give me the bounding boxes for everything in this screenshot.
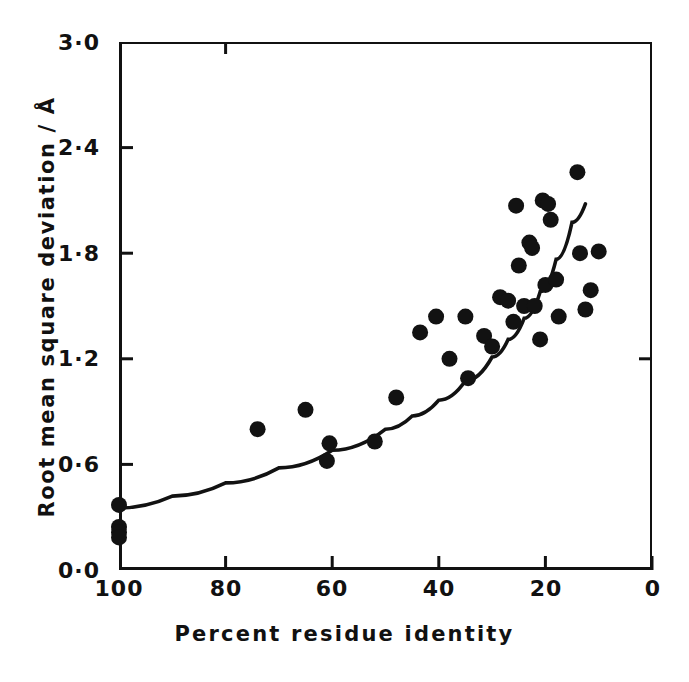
scatter-points	[111, 164, 607, 545]
fitted-trend-curve	[119, 204, 585, 508]
scatter-point	[500, 293, 516, 309]
scatter-point	[319, 453, 335, 469]
scatter-point	[532, 331, 548, 347]
scatter-point	[591, 243, 607, 259]
scatter-point	[322, 435, 338, 451]
scatter-point	[524, 240, 540, 256]
scatter-point	[543, 212, 559, 228]
scatter-point	[460, 370, 476, 386]
scatter-point	[388, 390, 404, 406]
scatter-point	[428, 309, 444, 325]
scatter-point	[508, 198, 524, 214]
scatter-point	[569, 164, 585, 180]
scatter-point	[511, 258, 527, 274]
scatter-point	[505, 314, 521, 330]
scatter-point	[111, 529, 127, 545]
scatter-point	[412, 324, 428, 340]
scatter-point	[548, 272, 564, 288]
scatter-point	[572, 245, 588, 261]
scatter-point	[583, 282, 599, 298]
scatter-point	[540, 196, 556, 212]
scatter-point	[551, 309, 567, 325]
scatter-point	[577, 302, 593, 318]
plot-canvas	[0, 0, 689, 682]
scatter-point	[250, 421, 266, 437]
scatter-point	[442, 351, 458, 367]
scatter-point	[111, 497, 127, 513]
tick-marks	[119, 42, 652, 570]
figure-root: 0·0 0·6 1·2 1·8 2·4 3·0 100 80 60 40 20 …	[0, 0, 689, 682]
scatter-point	[457, 309, 473, 325]
scatter-point	[298, 402, 314, 418]
scatter-point	[527, 298, 543, 314]
scatter-point	[367, 434, 383, 450]
scatter-point	[484, 339, 500, 355]
